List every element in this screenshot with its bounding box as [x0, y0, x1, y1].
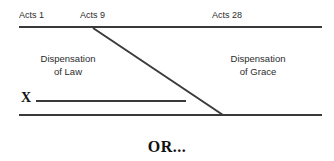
dispensation-of-grace-line1: Dispensation	[231, 53, 286, 64]
dispensation-of-grace-label: Dispensation of Grace	[198, 52, 318, 78]
dispensation-diagram: Acts 1 Acts 9 Acts 28 Dispensation of La…	[0, 0, 334, 161]
timeline-marker-acts-28: Acts 28	[212, 10, 242, 21]
dispensation-of-law-line2: of Law	[8, 65, 128, 78]
timeline-marker-acts-9: Acts 9	[80, 10, 105, 21]
timeline-marker-acts-1: Acts 1	[19, 10, 44, 21]
x-marker-label: X	[21, 91, 31, 105]
dispensation-of-law-label: Dispensation of Law	[8, 52, 128, 78]
dispensation-of-grace-line2: of Grace	[198, 65, 318, 78]
dispensation-of-law-line1: Dispensation	[41, 53, 96, 64]
diagram-lines	[0, 0, 334, 161]
or-caption: OR...	[0, 138, 334, 156]
